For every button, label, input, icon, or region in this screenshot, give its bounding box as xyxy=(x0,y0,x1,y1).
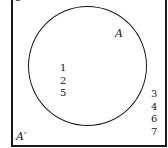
complement-elements: 3 4 6 7 xyxy=(151,88,157,138)
element: 1 xyxy=(60,62,66,75)
set-a-label: A xyxy=(115,27,123,40)
element: 3 xyxy=(151,88,157,101)
element: 2 xyxy=(60,75,66,88)
complement-label: A′ xyxy=(16,130,26,143)
element: 5 xyxy=(60,87,66,100)
universal-set-label: U xyxy=(14,0,23,4)
element: 7 xyxy=(151,126,157,139)
set-a-circle xyxy=(28,6,147,126)
element: 4 xyxy=(151,101,157,114)
set-a-elements: 1 2 5 xyxy=(60,62,66,100)
element: 6 xyxy=(151,113,157,126)
venn-diagram: U A 1 2 5 3 4 6 7 A′ xyxy=(0,0,168,148)
